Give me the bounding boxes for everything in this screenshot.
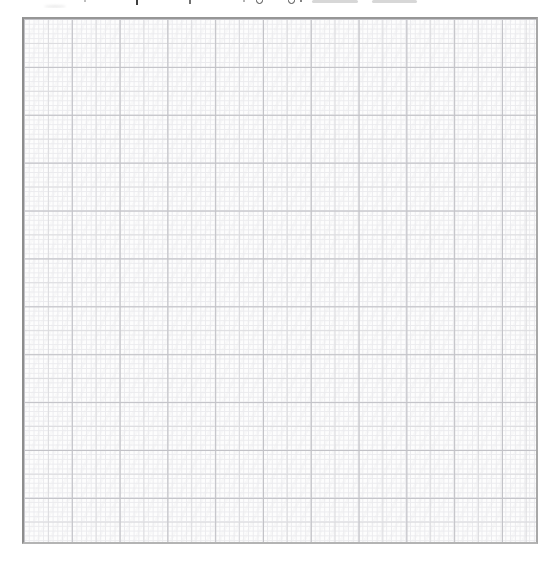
dot-fragment [243,0,245,2]
dot-fragment [84,0,86,2]
stem-fragment [136,0,138,5]
graph-paper [22,17,538,544]
loop-fragment [288,0,295,4]
dot-fragment [300,0,302,2]
screenshot-canvas [0,0,556,565]
clipped-caption [0,0,556,8]
stem-fragment [189,0,191,4]
smudge-fragment [44,5,66,8]
bar-fragment [312,0,358,3]
bar-fragment [372,0,417,3]
loop-fragment [256,0,263,4]
